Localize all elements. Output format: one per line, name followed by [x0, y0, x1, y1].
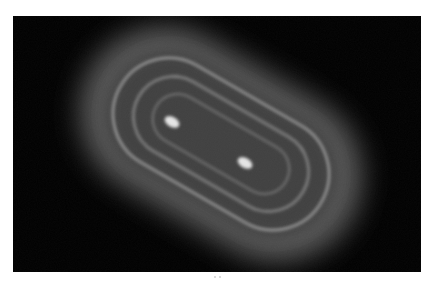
- image-panel: [13, 16, 421, 272]
- noise-overlay: [13, 16, 421, 272]
- caption-dot: [214, 276, 216, 278]
- caption-dot: [219, 276, 221, 278]
- caption-marks: [214, 276, 222, 280]
- diffraction-pattern: [13, 16, 421, 272]
